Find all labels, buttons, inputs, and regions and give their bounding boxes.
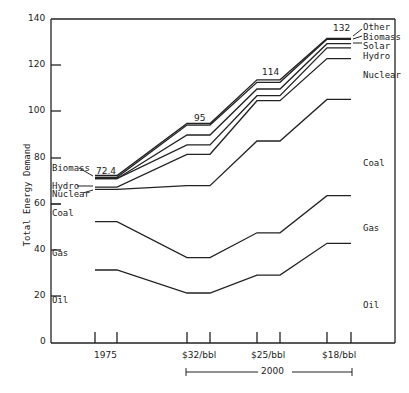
y-tick-100: 100 [28, 105, 45, 115]
x-tick-25: $25/bbl [251, 350, 285, 360]
axes [51, 19, 395, 376]
right-label-coal: Coal [363, 158, 385, 168]
right-label-solar: Solar [363, 41, 390, 51]
total-18: 132 [333, 23, 350, 33]
y-tick-60: 60 [34, 198, 45, 208]
right-label-nuclear: Nuclear [363, 70, 401, 80]
series-line-other [95, 38, 351, 175]
x-tick-1975: 1975 [94, 350, 117, 360]
y-tick-120: 120 [28, 59, 45, 69]
total-1975: 72.4 [96, 166, 116, 176]
x-ticks [95, 332, 351, 343]
y-tick-40: 40 [34, 244, 45, 254]
right-leader-lines [353, 29, 362, 43]
y-tick-20: 20 [34, 290, 45, 300]
right-label-oil: Oil [363, 300, 379, 310]
left-label-oil: Oil [52, 295, 68, 305]
right-label-gas: Gas [363, 223, 379, 233]
biomass-leader-right [353, 36, 362, 39]
y-axis-label: Total Energy Demand [22, 140, 32, 250]
x-group-2000: 2000 [261, 366, 284, 376]
left-label-coal: Coal [52, 208, 74, 218]
left-label-nuclear: Nuclear [52, 189, 90, 199]
left-label-gas: Gas [52, 248, 68, 258]
y-tick-140: 140 [28, 13, 45, 23]
series-lines [95, 38, 351, 293]
y-tick-80: 80 [34, 152, 45, 162]
series-line-gas [95, 196, 351, 258]
total-32: 95 [194, 113, 205, 123]
other-leader [353, 29, 362, 36]
right-label-other: Other [363, 22, 390, 32]
y-tick-0: 0 [40, 336, 46, 346]
right-label-hydro: Hydro [363, 51, 390, 61]
x-tick-18: $18/bbl [322, 350, 356, 360]
x-tick-32: $32/bbl [182, 350, 216, 360]
total-25: 114 [262, 67, 279, 77]
left-label-biomass: Biomass [52, 163, 90, 173]
series-line-biomass [95, 39, 351, 177]
